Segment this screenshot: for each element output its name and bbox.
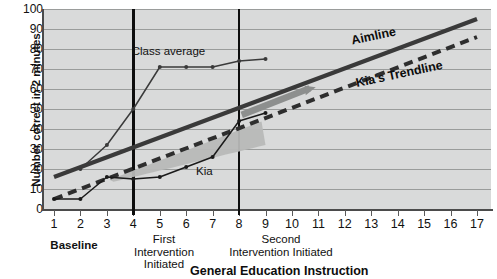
x-tick-label: 7: [209, 217, 216, 231]
gridline: [44, 109, 491, 110]
annotation-kia: Kia: [196, 165, 213, 177]
x-tick-mark: [292, 210, 293, 216]
caption-second-intervention: Second Intervention Initiated: [205, 233, 357, 258]
plot-area: [42, 9, 491, 210]
y-tick-label: 50: [30, 103, 43, 115]
x-tick-mark: [80, 210, 81, 216]
y-tick-label: 60: [30, 83, 43, 95]
x-tick-label: 5: [156, 217, 163, 231]
x-tick-label: 17: [470, 217, 484, 231]
x-tick-mark: [424, 210, 425, 216]
x-tick-mark: [213, 210, 214, 216]
x-tick-mark: [318, 210, 319, 216]
x-tick-label: 8: [236, 217, 243, 231]
x-axis-title: General Education Instruction: [190, 264, 369, 278]
x-tick-mark: [398, 210, 399, 216]
x-tick-mark: [186, 210, 187, 216]
y-tick-label: 20: [30, 163, 43, 175]
phase-line-first-intervention: [132, 9, 134, 215]
x-tick-mark: [54, 210, 55, 216]
y-tick-label: 30: [30, 143, 43, 155]
x-tick-label: 1: [51, 217, 58, 231]
annotation-class-average: Class average: [132, 45, 206, 57]
x-tick-label: 12: [338, 217, 352, 231]
y-tick-label: 40: [30, 123, 43, 135]
y-tick-label: 10: [30, 183, 43, 195]
x-tick-mark: [451, 210, 452, 216]
gridline: [44, 149, 491, 150]
x-tick-label: 3: [103, 217, 110, 231]
x-tick-mark: [266, 210, 267, 216]
x-tick-label: 10: [285, 217, 299, 231]
x-tick-mark: [371, 210, 372, 216]
gridline: [44, 49, 491, 50]
x-tick-label: 16: [444, 217, 458, 231]
chart-figure: Number correct in 2 minutes 100908070605…: [0, 0, 497, 279]
x-tick-mark: [107, 210, 108, 216]
gridline: [44, 129, 491, 130]
x-tick-mark: [477, 210, 478, 216]
y-tick-label: 100: [23, 3, 43, 15]
gridline: [44, 29, 491, 30]
y-axis-tick-labels: 1009080706050403020100: [0, 0, 46, 215]
x-tick-label: 13: [364, 217, 378, 231]
x-tick-label: 14: [391, 217, 405, 231]
x-tick-label: 9: [262, 217, 269, 231]
phase-line-second-intervention: [238, 9, 240, 215]
caption-baseline: Baseline: [31, 239, 117, 252]
gridline: [44, 169, 491, 170]
x-tick-label: 6: [183, 217, 190, 231]
x-tick-label: 2: [77, 217, 84, 231]
x-tick-mark: [345, 210, 346, 216]
y-tick-label: 70: [30, 63, 43, 75]
x-tick-label: 15: [417, 217, 431, 231]
y-tick-label: 90: [30, 23, 43, 35]
y-tick-label: 80: [30, 43, 43, 55]
gridline: [44, 89, 491, 90]
gridline: [44, 9, 491, 10]
x-tick-label: 4: [130, 217, 137, 231]
gridline: [44, 189, 491, 190]
x-axis-line: [42, 209, 493, 211]
x-tick-mark: [160, 210, 161, 216]
x-tick-label: 11: [312, 217, 325, 231]
